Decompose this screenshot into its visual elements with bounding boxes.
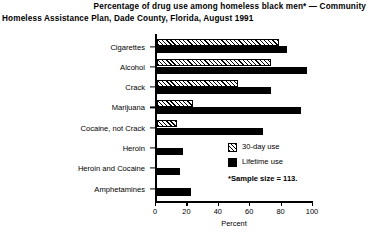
bar-lifetime-marijuana [157, 107, 301, 114]
y-axis-label-marijuana: Marijuana [112, 103, 145, 112]
x-axis-tick-label: 60 [236, 207, 262, 216]
x-axis-tick [281, 201, 282, 206]
legend-item-lifetime-use: Lifetime use [228, 156, 358, 171]
y-axis-tick [150, 66, 155, 67]
chart-legend: 30-day use Lifetime use [228, 141, 358, 171]
x-axis-tick [218, 201, 219, 206]
y-axis-label-heroin: Heroin [123, 144, 145, 153]
x-axis-tick-label: 40 [205, 207, 231, 216]
legend-label-30-day-use: 30-day use [242, 142, 280, 151]
bar-30-day-cocaine-not-crack [157, 120, 177, 127]
x-axis-tick-label: 20 [173, 207, 199, 216]
legend-swatch-solid-icon [228, 158, 237, 167]
y-axis-tick [150, 188, 155, 189]
bar-30-day-alcohol [157, 59, 272, 66]
y-axis-category-labels: CigarettesAlcoholCrackMarijuanaCocaine, … [0, 34, 152, 200]
bar-30-day-cigarettes [157, 39, 279, 46]
legend-item-30-day-use: 30-day use [228, 141, 358, 156]
bar-lifetime-amphetamines [157, 188, 192, 195]
y-axis-tick [150, 127, 155, 128]
x-axis-tick-label: 0 [142, 207, 168, 216]
bar-30-day-marijuana [157, 100, 193, 107]
x-axis-tick [155, 201, 156, 206]
bar-lifetime-alcohol [157, 67, 308, 74]
bar-lifetime-cocaine-not-crack [157, 128, 264, 135]
bar-lifetime-crack [157, 87, 272, 94]
legend-swatch-hatched-icon [228, 143, 237, 152]
y-axis-label-cocaine-not-crack: Cocaine, not Crack [80, 123, 145, 132]
y-axis-tick [150, 87, 155, 88]
y-axis-label-amphetamines: Amphetamines [94, 184, 145, 193]
bar-lifetime-cigarettes [157, 46, 287, 53]
x-axis-title: Percent [155, 219, 313, 228]
x-axis-tick [186, 201, 187, 206]
chart-footnote: *Sample size = 113. [228, 174, 297, 183]
bar-30-day-crack [157, 80, 239, 87]
legend-label-lifetime-use: Lifetime use [242, 157, 283, 166]
y-axis-tick [150, 107, 155, 108]
y-axis-tick [150, 168, 155, 169]
x-axis-tick [249, 201, 250, 206]
y-axis-tick [150, 46, 155, 47]
x-axis-tick [312, 201, 313, 206]
x-axis-tick-label: 80 [268, 207, 294, 216]
chart-plot-area: CigarettesAlcoholCrackMarijuanaCocaine, … [0, 34, 369, 249]
y-axis-label-alcohol: Alcohol [120, 62, 145, 71]
x-axis-line [155, 201, 313, 203]
y-axis-label-cigarettes: Cigarettes [110, 42, 145, 51]
chart-title-line-2: Homeless Assistance Plan, Dade County, F… [0, 13, 369, 25]
y-axis-tick [150, 147, 155, 148]
chart-title: Percentage of drug use among homeless bl… [0, 1, 369, 24]
y-axis-label-crack: Crack [125, 83, 145, 92]
bar-lifetime-heroin [157, 148, 184, 155]
x-axis-tick-label: 100 [299, 207, 325, 216]
chart-title-line-1: Percentage of drug use among homeless bl… [0, 1, 369, 13]
bar-lifetime-heroin-and-cocaine [157, 168, 181, 175]
y-axis-label-heroin-and-cocaine: Heroin and Cocaine [78, 164, 145, 173]
